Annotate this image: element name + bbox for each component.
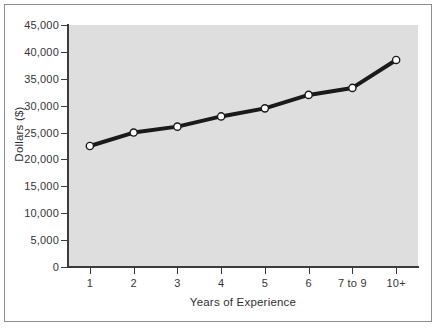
y-axis-line [67, 24, 69, 268]
x-tick-label: 1 [87, 277, 93, 289]
y-tick-mark [61, 213, 68, 214]
y-tick-label: 20,000 [1, 153, 59, 165]
x-tick-label: 2 [130, 277, 136, 289]
y-tick-label: 0 [1, 261, 59, 273]
y-tick-mark [61, 133, 68, 134]
y-tick-mark [61, 52, 68, 53]
y-tick-mark [61, 79, 68, 80]
y-tick-mark [61, 186, 68, 187]
x-tick-mark [352, 268, 353, 274]
y-tick-mark [61, 106, 68, 107]
y-tick-label: 45,000 [1, 19, 59, 31]
x-tick-label: 3 [174, 277, 180, 289]
y-axis-title: Dollars ($) [13, 79, 25, 189]
x-tick-mark [396, 268, 397, 274]
y-tick-label: 30,000 [1, 100, 59, 112]
x-tick-mark [177, 268, 178, 274]
y-tick-label: 40,000 [1, 46, 59, 58]
x-tick-label: 5 [262, 277, 268, 289]
x-axis-line [67, 266, 419, 268]
y-tick-label: 15,000 [1, 180, 59, 192]
y-tick-label: 5,000 [1, 234, 59, 246]
y-tick-label: 10,000 [1, 207, 59, 219]
x-tick-mark [90, 268, 91, 274]
x-tick-label: 10+ [386, 277, 405, 289]
y-tick-mark [61, 159, 68, 160]
y-tick-label: 35,000 [1, 73, 59, 85]
x-tick-mark [309, 268, 310, 274]
y-tick-mark [61, 240, 68, 241]
y-tick-mark [61, 25, 68, 26]
x-axis-title: Years of Experience [68, 296, 418, 308]
y-tick-label: 25,000 [1, 127, 59, 139]
x-tick-label: 7 to 9 [338, 277, 367, 289]
x-tick-mark [221, 268, 222, 274]
x-tick-mark [134, 268, 135, 274]
x-tick-mark [265, 268, 266, 274]
chart-figure: 05,00010,00015,00020,00025,00030,00035,0… [0, 0, 440, 331]
y-tick-mark [61, 267, 68, 268]
plot-area [68, 25, 418, 267]
x-tick-label: 6 [305, 277, 311, 289]
x-tick-label: 4 [218, 277, 224, 289]
